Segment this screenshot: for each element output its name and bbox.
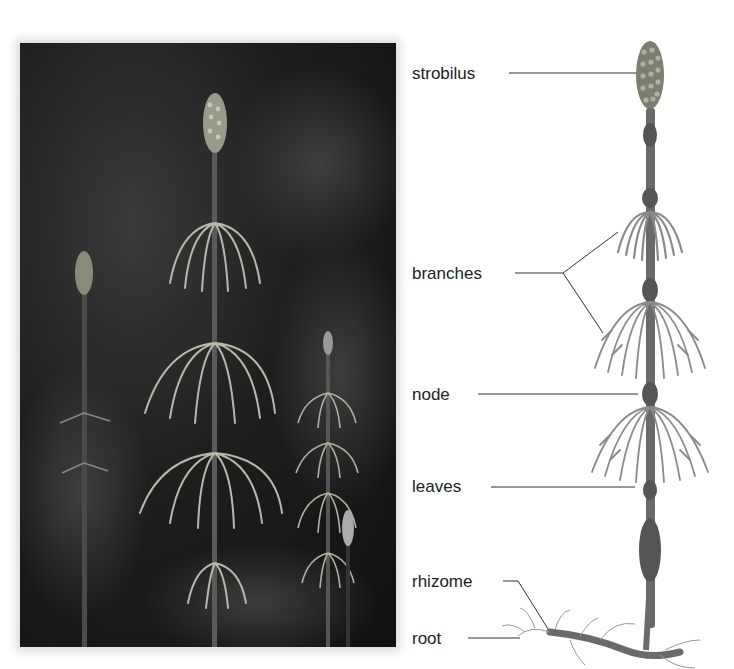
illustration-graphic bbox=[400, 0, 734, 669]
label-rhizome: rhizome bbox=[412, 573, 472, 590]
label-branches: branches bbox=[412, 265, 482, 282]
horsetail-photo bbox=[20, 43, 396, 647]
label-strobilus: strobilus bbox=[412, 65, 475, 82]
horsetail-illustration: strobilus branches node leaves rhizome r… bbox=[400, 0, 734, 669]
photo-plants-graphic bbox=[20, 43, 396, 647]
leader-lines bbox=[468, 73, 640, 638]
label-root: root bbox=[412, 630, 441, 647]
label-leaves: leaves bbox=[412, 478, 461, 495]
label-node: node bbox=[412, 386, 450, 403]
